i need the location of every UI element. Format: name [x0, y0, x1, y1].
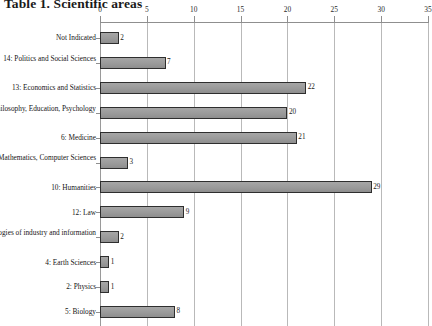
- x-tick-label-15: 15: [237, 5, 244, 14]
- x-tick-label-10: 10: [190, 5, 197, 14]
- bar[interactable]: [100, 157, 128, 169]
- bar-value-label: 8: [176, 307, 180, 315]
- bar[interactable]: [100, 107, 287, 119]
- category-label: 6: Medicine: [0, 133, 96, 142]
- category-label: 4: Earth Sciences: [0, 258, 96, 267]
- category-label: 1: Mathematics, Computer Sciences: [0, 153, 96, 162]
- bar[interactable]: [100, 306, 175, 318]
- x-tick-label-30: 30: [377, 5, 384, 14]
- bar[interactable]: [100, 82, 306, 94]
- bar-value-label: 2: [120, 233, 124, 241]
- gridline-30: [381, 22, 382, 326]
- x-tick-mark-10: [194, 16, 195, 23]
- bar-value-label: 21: [298, 133, 305, 141]
- x-tick-mark-30: [381, 16, 382, 23]
- bar[interactable]: [100, 132, 297, 144]
- x-tick-mark-0: [100, 16, 101, 23]
- bar-value-label: 20: [289, 108, 296, 116]
- category-label: 11: History, Philosophy, Education, Psyc…: [0, 104, 96, 113]
- x-tick-mark-35: [428, 16, 429, 23]
- bar-value-label: 7: [167, 58, 171, 66]
- x-tick-mark-25: [334, 16, 335, 23]
- bar-value-label: 22: [308, 83, 315, 91]
- bar-value-label: 29: [373, 183, 380, 191]
- bar-value-label: 2: [120, 34, 124, 42]
- x-tick-mark-20: [287, 16, 288, 23]
- x-tick-label-25: 25: [331, 5, 338, 14]
- x-tick-mark-5: [147, 16, 148, 23]
- bar[interactable]: [100, 181, 372, 193]
- x-tick-label-35: 35: [424, 5, 431, 14]
- bar-value-label: 3: [130, 158, 134, 166]
- gridline-10: [194, 22, 195, 326]
- category-label: Not Indicated: [0, 33, 96, 42]
- gridline-20: [287, 22, 288, 326]
- bar[interactable]: [100, 206, 184, 218]
- x-axis-line: [100, 22, 428, 23]
- x-tick-label-0: 0: [98, 5, 102, 14]
- bar-value-label: 1: [111, 283, 115, 291]
- bar-value-label: 9: [186, 208, 190, 216]
- gridline-35: [428, 22, 429, 326]
- bar[interactable]: [100, 281, 109, 293]
- bar[interactable]: [100, 256, 109, 268]
- category-label: 5: Biology: [0, 307, 96, 316]
- category-label: 9: Technologies of industry and informat…: [0, 228, 96, 237]
- category-label: 14: Politics and Social Sciences: [0, 54, 96, 63]
- category-label: 10: Humanities: [0, 183, 96, 192]
- bar[interactable]: [100, 32, 119, 44]
- bar[interactable]: [100, 57, 166, 69]
- bar-value-label: 1: [111, 258, 115, 266]
- bar[interactable]: [100, 231, 119, 243]
- gridline-25: [334, 22, 335, 326]
- gridline-15: [241, 22, 242, 326]
- category-label: 13: Economics and Statistics: [0, 83, 96, 92]
- category-label: 2: Physics: [0, 282, 96, 291]
- category-label: 12: Law: [0, 208, 96, 217]
- x-tick-label-5: 5: [145, 5, 149, 14]
- x-tick-mark-15: [241, 16, 242, 23]
- x-tick-label-20: 20: [284, 5, 291, 14]
